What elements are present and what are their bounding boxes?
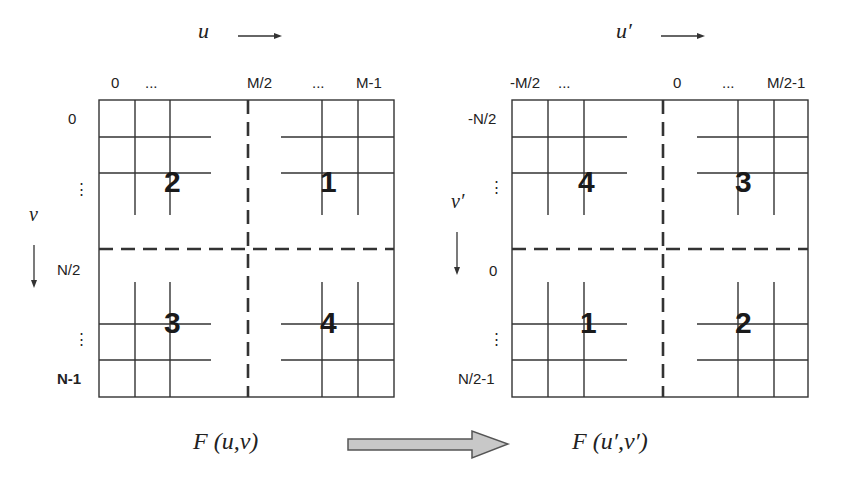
- left-side-tick-0: 0: [68, 110, 76, 127]
- right-side-tick-3: ⋮: [489, 330, 504, 348]
- left-side-tick-2: N/2: [57, 261, 80, 278]
- left-caption: F (u,ν): [193, 428, 258, 455]
- u-prime-axis-label: u′: [616, 18, 632, 44]
- left-quadrant-bottom-right: 4: [320, 306, 337, 340]
- left-side-tick-4: N-1: [57, 370, 81, 387]
- left-top-tick-2: M/2: [247, 74, 272, 91]
- left-top-tick-4: M-1: [356, 74, 382, 91]
- right-top-tick-2: 0: [673, 74, 681, 91]
- u-axis-label: u: [198, 18, 209, 44]
- left-side-tick-1: ⋮: [74, 180, 89, 198]
- right-top-tick-1: ...: [558, 74, 571, 91]
- right-quadrant-bottom-left: 1: [580, 306, 597, 340]
- left-quadrant-top-right: 1: [320, 165, 337, 199]
- right-side-tick-0: -N/2: [468, 110, 496, 127]
- left-top-tick-0: 0: [111, 74, 119, 91]
- left-top-tick-1: ...: [145, 74, 158, 91]
- transform-arrow: [348, 431, 508, 458]
- left-top-tick-3: ...: [312, 74, 325, 91]
- right-quadrant-top-right: 3: [735, 165, 752, 199]
- right-top-tick-4: M/2-1: [767, 74, 805, 91]
- right-side-tick-1: ⋮: [489, 178, 504, 196]
- right-side-tick-4: N/2-1: [458, 370, 495, 387]
- right-top-tick-3: ...: [722, 74, 735, 91]
- right-top-tick-0: -M/2: [510, 74, 540, 91]
- right-quadrant-bottom-right: 2: [735, 306, 752, 340]
- v-prime-axis-label: ν′: [451, 190, 464, 213]
- v-axis-label: ν: [29, 203, 38, 226]
- right-quadrant-top-left: 4: [578, 165, 595, 199]
- left-side-tick-3: ⋮: [74, 330, 89, 348]
- left-quadrant-bottom-left: 3: [164, 306, 181, 340]
- left-quadrant-top-left: 2: [164, 165, 181, 199]
- right-side-tick-2: 0: [489, 262, 497, 279]
- grid-drawing: [0, 0, 846, 483]
- right-caption: F (u′,ν′): [572, 428, 648, 455]
